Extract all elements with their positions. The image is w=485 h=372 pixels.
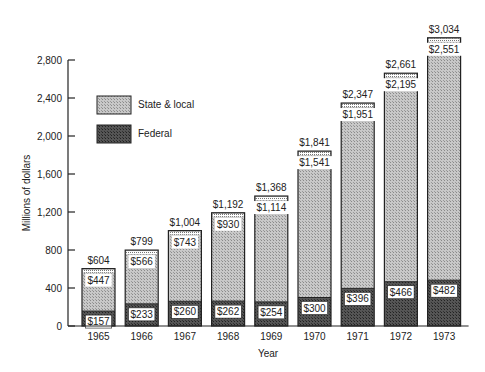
federal-value-label: $466 <box>390 287 413 298</box>
federal-value-label: $260 <box>174 306 197 317</box>
bar-cap <box>385 74 416 77</box>
y-tick-label: 800 <box>45 245 62 256</box>
bar-1966: $799$566$233 <box>125 236 158 326</box>
state-local-value-label: $2,551 <box>429 44 460 55</box>
state-local-segment <box>428 38 461 280</box>
bar-1968: $1,192$930$262 <box>212 199 245 326</box>
state-local-value-label: $930 <box>217 219 240 230</box>
total-label: $1,192 <box>213 199 244 210</box>
x-tick-label: 1967 <box>174 331 197 342</box>
bar-cap <box>342 104 373 107</box>
x-tick-label: 1966 <box>131 331 154 342</box>
x-tick-label: 1972 <box>390 331 413 342</box>
state-local-value-label: $447 <box>87 275 110 286</box>
bars-group: $604$447$157$799$566$233$1,004$743$260$1… <box>82 24 463 328</box>
total-label: $604 <box>87 255 110 266</box>
state-local-value-label: $566 <box>131 256 154 267</box>
bar-1970: $1,841$1,541$300 <box>296 137 334 326</box>
bar-cap <box>213 214 244 217</box>
bar-1967: $1,004$743$260 <box>168 217 201 326</box>
y-tick-label: 400 <box>45 283 62 294</box>
bar-1971: $2,347$1,951$396 <box>339 89 377 326</box>
bar-cap <box>429 39 460 42</box>
total-label: $799 <box>131 236 154 247</box>
bar-cap <box>299 152 330 155</box>
bar-cap <box>83 270 114 273</box>
y-tick-label: 2,800 <box>37 55 62 66</box>
y-tick-label: 1,600 <box>37 169 62 180</box>
x-tick-label: 1970 <box>303 331 326 342</box>
federal-value-label: $262 <box>217 306 240 317</box>
bar-1973: $3,034$2,551$482 <box>425 24 463 326</box>
bar-cap <box>126 251 157 254</box>
x-tick-label: 1965 <box>87 331 110 342</box>
legend-label-state-local: State & local <box>138 99 194 110</box>
legend-label-federal: Federal <box>138 128 172 139</box>
y-tick-label: 1,200 <box>37 207 62 218</box>
total-label: $2,661 <box>386 59 417 70</box>
legend: State & local Federal <box>97 96 194 143</box>
state-local-value-label: $1,114 <box>256 202 286 213</box>
state-local-value-label: $743 <box>174 237 197 248</box>
x-axis-title: Year <box>258 348 279 359</box>
state-local-value-label: $1,951 <box>342 109 373 120</box>
bar-1972: $2,661$2,195$466 <box>382 59 420 326</box>
x-tick-label: 1973 <box>433 331 456 342</box>
x-tick-label: 1971 <box>347 331 370 342</box>
y-tick-label: 0 <box>56 321 62 332</box>
x-tick-label: 1969 <box>260 331 283 342</box>
total-label: $1,368 <box>256 182 287 193</box>
state-local-value-label: $1,541 <box>299 157 330 168</box>
total-label: $3,034 <box>429 24 460 35</box>
bar-cap <box>256 197 287 200</box>
federal-value-label: $233 <box>131 309 154 320</box>
bar-1969: $1,368$1,114$254 <box>253 182 291 326</box>
federal-value-label: $300 <box>303 303 326 314</box>
x-tick-label: 1968 <box>217 331 240 342</box>
bar-1965: $604$447$157 <box>82 255 115 328</box>
total-label: $1,004 <box>170 217 201 228</box>
total-label: $2,347 <box>342 89 373 100</box>
state-local-value-label: $2,195 <box>386 79 417 90</box>
legend-item-federal: Federal <box>97 125 172 143</box>
y-axis: 04008001,2001,6002,0002,4002,800 <box>37 55 75 332</box>
y-tick-label: 2,000 <box>37 131 62 142</box>
federal-value-label: $482 <box>433 285 456 296</box>
x-axis: 196519661967196819691970197119721973 <box>68 326 469 342</box>
bar-cap <box>169 232 200 235</box>
stacked-bar-chart: 04008001,2001,6002,0002,4002,800 $604$44… <box>0 0 485 372</box>
legend-item-state-local: State & local <box>97 96 194 114</box>
state-local-segment <box>384 73 417 282</box>
total-label: $1,841 <box>299 137 330 148</box>
legend-swatch-federal <box>97 125 131 143</box>
state-local-segment <box>298 151 331 297</box>
federal-value-label: $396 <box>347 293 370 304</box>
state-local-segment <box>341 103 374 288</box>
y-tick-label: 2,400 <box>37 93 62 104</box>
legend-swatch-state-local <box>97 96 131 114</box>
y-axis-title: Millions of dollars <box>21 155 32 232</box>
federal-value-label: $254 <box>260 307 283 318</box>
